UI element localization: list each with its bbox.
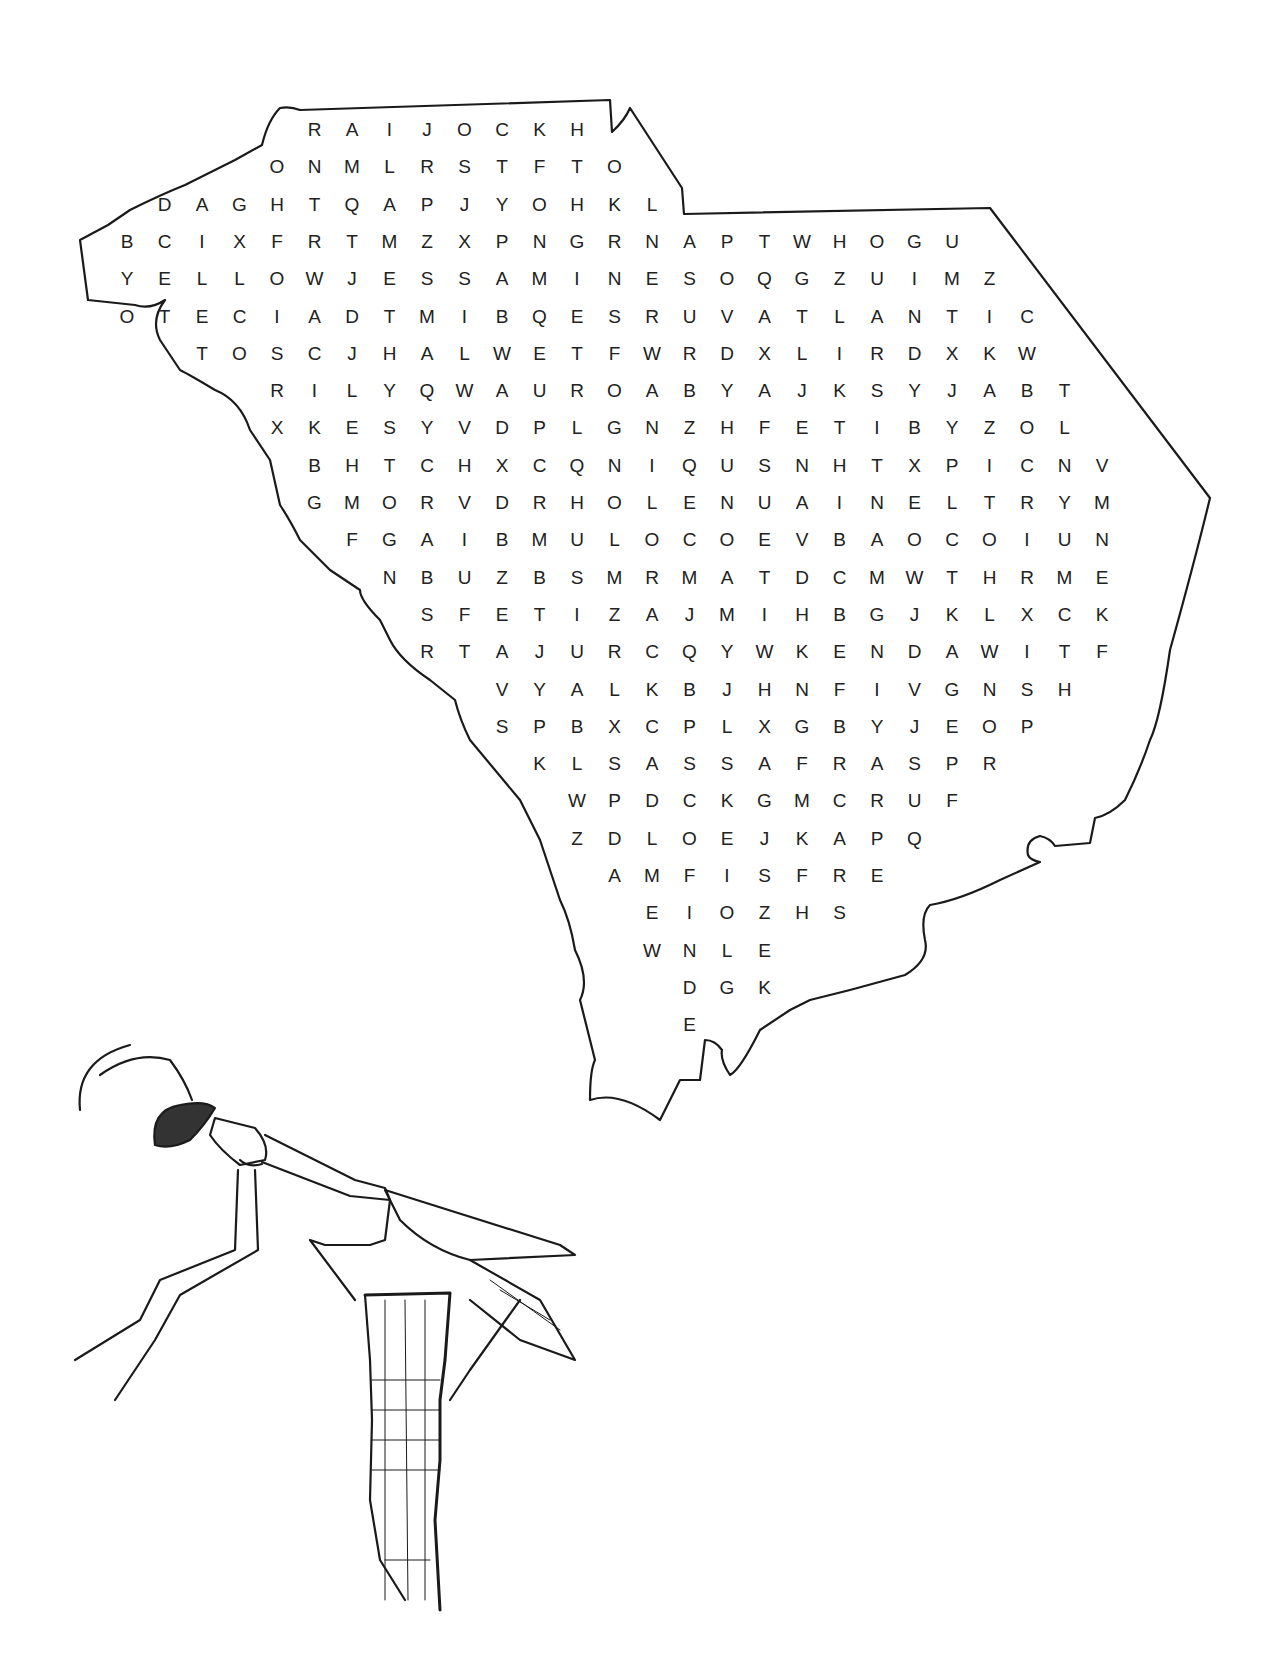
mantis-icon	[0, 0, 1285, 1667]
